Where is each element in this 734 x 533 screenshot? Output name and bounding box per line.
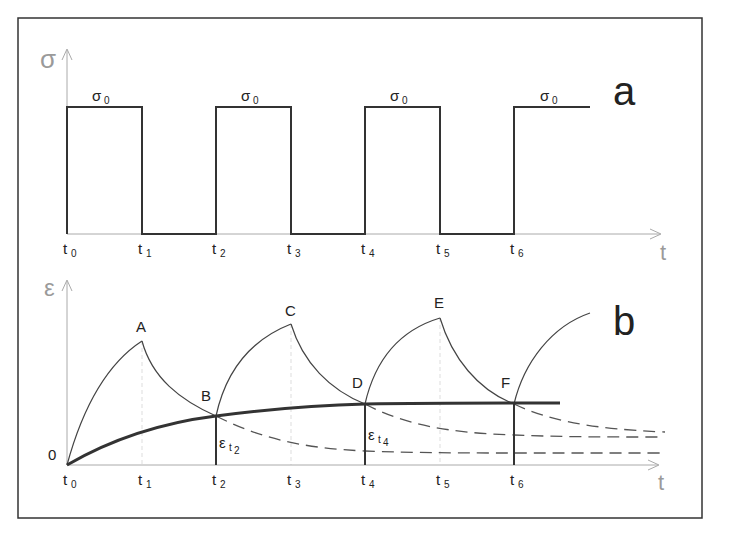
svg-text:2: 2 <box>220 479 226 490</box>
stress-strain-diagram: σ t σ 0 σ 0 σ 0 σ 0 t0 t1 t2 t3 t4 t5 <box>0 0 734 533</box>
svg-text:σ: σ <box>92 87 102 104</box>
svg-text:ε: ε <box>368 426 375 443</box>
origin-label: 0 <box>48 446 56 463</box>
svg-text:6: 6 <box>518 248 524 259</box>
svg-text:0: 0 <box>71 248 77 259</box>
point-label-e: E <box>434 294 444 311</box>
time-axis-label-a: t <box>660 240 666 265</box>
svg-text:2: 2 <box>220 248 226 259</box>
figure-frame <box>18 18 702 518</box>
time-axis-label-b: t <box>658 470 664 495</box>
svg-text:4: 4 <box>369 479 375 490</box>
point-label-c: C <box>285 302 296 319</box>
svg-text:4: 4 <box>383 437 389 448</box>
point-label-b: B <box>201 387 211 404</box>
svg-text:0: 0 <box>402 95 408 106</box>
sigma-axis-label: σ <box>40 44 56 74</box>
svg-text:1: 1 <box>146 248 152 259</box>
point-label-a: A <box>136 318 146 335</box>
svg-text:3: 3 <box>295 248 301 259</box>
svg-text:σ: σ <box>390 87 400 104</box>
svg-text:5: 5 <box>444 248 450 259</box>
svg-text:t: t <box>378 434 381 445</box>
svg-text:3: 3 <box>295 479 301 490</box>
panel-letter-a: a <box>613 69 636 113</box>
epsilon-axis-label: ε <box>44 274 55 301</box>
point-label-d: D <box>352 374 363 391</box>
svg-text:6: 6 <box>518 479 524 490</box>
svg-text:ε: ε <box>219 434 226 451</box>
svg-text:5: 5 <box>444 479 450 490</box>
svg-text:2: 2 <box>234 445 240 456</box>
point-label-f: F <box>501 374 510 391</box>
svg-text:0: 0 <box>104 95 110 106</box>
svg-text:4: 4 <box>369 248 375 259</box>
svg-text:0: 0 <box>71 479 77 490</box>
svg-text:t: t <box>229 442 232 453</box>
svg-text:σ: σ <box>540 87 550 104</box>
svg-text:0: 0 <box>253 95 259 106</box>
svg-text:σ: σ <box>241 87 251 104</box>
svg-text:0: 0 <box>552 95 558 106</box>
panel-letter-b: b <box>613 299 635 343</box>
svg-text:1: 1 <box>146 479 152 490</box>
